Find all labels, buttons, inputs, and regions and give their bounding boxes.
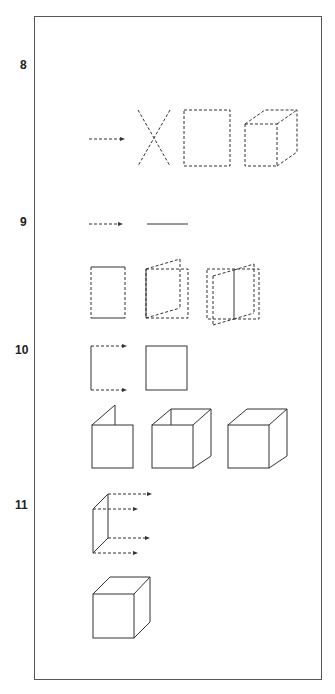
- row-9-rect-half-dashed: [91, 267, 125, 318]
- row-11-folded-plane: [92, 405, 133, 468]
- row-10-solid-square: [146, 346, 187, 390]
- row-9-rect-double-plane: [207, 264, 259, 325]
- row-8-dashed-square: [184, 110, 230, 166]
- row-11-final-cube: [93, 577, 150, 638]
- row-11-edge-sweep: [93, 492, 152, 555]
- row-11-open-cube: [152, 409, 211, 468]
- diagram-drawing: [0, 0, 335, 694]
- row-11-closed-cube: [228, 409, 287, 468]
- row-9-rect-swinging-plane: [146, 259, 188, 318]
- row-10-sweep-square: [91, 344, 127, 392]
- row-9-dashed-arrow: [89, 222, 123, 226]
- row-8-dashed-arrow: [89, 137, 125, 141]
- row-8-dashed-cross: [138, 110, 170, 166]
- row-8-dashed-cube: [245, 110, 297, 166]
